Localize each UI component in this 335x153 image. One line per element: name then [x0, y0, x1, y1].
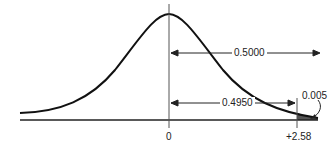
annotation-tail-0-005: 0.005: [302, 90, 327, 101]
tail-pointer-arrow: [312, 100, 320, 118]
tick-label-2-58: +2.58: [286, 131, 311, 142]
annotation-0-4950: 0.4950: [220, 97, 255, 108]
tick-label-zero: 0: [166, 131, 172, 142]
annotation-0-5000: 0.5000: [232, 47, 267, 58]
